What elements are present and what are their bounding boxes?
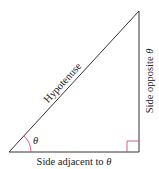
hypotenuse-label: Hypotenuse [41,60,83,105]
right-angle-marker [127,141,139,152]
opposite-side-text: Side opposite [144,56,155,113]
adjacent-side-label: Side adjacent to θ [37,156,112,167]
right-triangle-diagram: θ Hypotenuse Side opposite θ Side adjace… [0,0,159,169]
theta-label: θ [33,135,38,146]
opposite-side-label: Side opposite θ [144,49,155,114]
opposite-theta: θ [144,49,155,54]
adjacent-side-text: Side adjacent to [37,156,104,167]
adjacent-theta: θ [106,156,111,167]
theta-angle-arc [24,136,31,152]
hypotenuse-line [9,11,139,152]
